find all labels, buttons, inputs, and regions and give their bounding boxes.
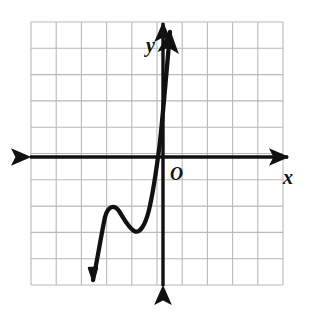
y-axis-label: y (144, 34, 155, 57)
graph-figure: y x O (0, 0, 313, 318)
origin-label: O (170, 164, 183, 184)
x-axis-label: x (282, 166, 293, 188)
coordinate-plane-svg: y x O (0, 0, 313, 318)
